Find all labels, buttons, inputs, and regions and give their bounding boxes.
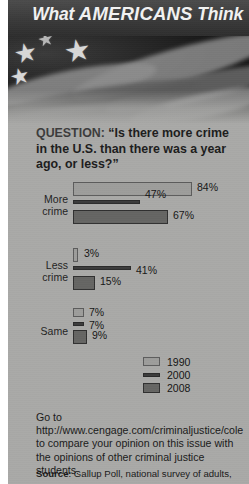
page-title-emphasis: AMERICANS xyxy=(79,3,193,24)
bar-value-more-1990: 84% xyxy=(197,181,218,193)
bar-row-more-2008: 67% xyxy=(73,210,243,224)
category-label-less-crime: Less crime xyxy=(8,259,68,283)
category-label-more-crime: More crime xyxy=(8,193,68,217)
legend-item-1990: 1990 xyxy=(143,356,243,368)
bar-less-2000 xyxy=(73,266,131,270)
bar-row-less-1990: 3% xyxy=(73,248,243,262)
bar-more-2000 xyxy=(73,200,140,204)
source-text: : Gallup Poll, national survey of adults… xyxy=(69,468,232,479)
category-label-line: crime xyxy=(8,205,68,217)
category-label-line: Same xyxy=(8,325,68,337)
bar-same-1990 xyxy=(73,308,84,317)
bar-less-2008 xyxy=(73,276,95,290)
bar-group-more-crime: More crime 84% 47% 67% xyxy=(8,182,249,232)
flag-fade-overlay xyxy=(8,90,249,124)
bar-more-1990 xyxy=(73,182,192,196)
page-title-part2: Think xyxy=(193,4,243,24)
bar-row-less-2000: 41% xyxy=(73,266,243,270)
page-title: What AMERICANS Think xyxy=(32,3,243,25)
bar-more-2008 xyxy=(73,210,168,224)
bar-row-same-2000: 7% xyxy=(73,322,243,326)
category-label-same: Same xyxy=(8,325,68,337)
bar-value-more-2000: 47% xyxy=(145,188,166,200)
bar-row-same-2008: 9% xyxy=(73,330,243,344)
bar-chart: More crime 84% 47% 67% Less crime xyxy=(8,182,249,354)
legend-label-2000: 2000 xyxy=(167,369,190,381)
bar-group-same: Same 7% 7% 9% xyxy=(8,308,249,354)
legend-item-2008: 2008 xyxy=(143,382,243,394)
bar-row-more-2000: 47% xyxy=(73,200,243,204)
page-title-part1: What xyxy=(32,4,79,24)
flag-star-icon: ★ xyxy=(36,36,55,49)
bar-row-same-1990: 7% xyxy=(73,308,243,317)
bar-value-more-2008: 67% xyxy=(173,209,194,221)
legend-swatch-2008 xyxy=(143,383,160,393)
category-label-line: crime xyxy=(8,271,68,283)
category-label-line: Less xyxy=(8,259,68,271)
header-banner: What AMERICANS Think xyxy=(8,0,249,36)
bar-row-less-2008: 15% xyxy=(73,276,243,290)
question-label: QUESTION: xyxy=(36,126,105,140)
chart-legend: 1990 2000 2008 xyxy=(143,356,243,395)
category-label-line: More xyxy=(8,193,68,205)
bar-group-less-crime: Less crime 3% 41% 15% xyxy=(8,248,249,298)
bar-less-1990 xyxy=(73,248,78,262)
source-citation: Source: Gallup Poll, national survey of … xyxy=(36,468,246,480)
bar-value-same-2008: 9% xyxy=(92,329,107,341)
source-label: Source xyxy=(36,468,69,479)
legend-swatch-1990 xyxy=(143,357,160,366)
question-text: QUESTION: “Is there more crime in the U.… xyxy=(36,126,241,173)
legend-item-2000: 2000 xyxy=(143,369,243,381)
flag-star-icon: ★ xyxy=(62,36,94,68)
bar-same-2000 xyxy=(73,322,84,326)
americans-think-figure: What AMERICANS Think ★ ★ ★ ★ QUESTION: “… xyxy=(8,0,249,484)
bar-value-less-2000: 41% xyxy=(136,264,157,276)
legend-swatch-2000 xyxy=(143,373,160,377)
bar-value-less-2008: 15% xyxy=(100,275,121,287)
legend-label-2008: 2008 xyxy=(167,382,190,394)
legend-label-1990: 1990 xyxy=(167,356,190,368)
bar-value-same-1990: 7% xyxy=(89,306,104,318)
bar-value-less-1990: 3% xyxy=(84,247,99,259)
american-flag-image: ★ ★ ★ ★ xyxy=(8,36,249,124)
bar-same-2008 xyxy=(73,330,87,344)
